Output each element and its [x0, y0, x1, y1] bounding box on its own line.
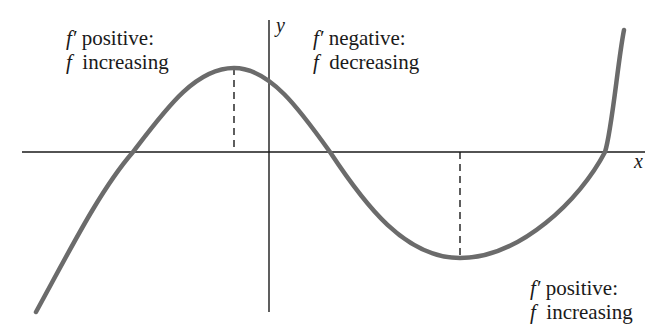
behavior-text: decreasing — [319, 50, 419, 74]
behavior-text: increasing — [72, 50, 169, 74]
annotation-right: f′ positive: f increasing — [530, 276, 633, 324]
derivative-sign-diagram: y x f′ positive: f increasing f′ negativ… — [0, 0, 661, 330]
annotation-left-line2: f increasing — [66, 50, 169, 74]
derivative-sign-text: positive: — [76, 26, 154, 50]
derivative-sign-text: positive: — [540, 276, 618, 300]
behavior-text: increasing — [536, 300, 633, 324]
annotation-right-line1: f′ positive: — [530, 276, 633, 300]
y-axis-label: y — [276, 14, 285, 37]
annotation-left: f′ positive: f increasing — [66, 26, 169, 74]
annotation-right-line2: f increasing — [530, 300, 633, 324]
annotation-middle-line2: f decreasing — [313, 50, 419, 74]
annotation-middle-line1: f′ negative: — [313, 26, 419, 50]
annotation-middle: f′ negative: f decreasing — [313, 26, 419, 74]
f-prime-symbol: f′ — [313, 26, 323, 50]
derivative-sign-text: negative: — [323, 26, 405, 50]
f-prime-symbol: f′ — [530, 276, 540, 300]
annotation-left-line1: f′ positive: — [66, 26, 169, 50]
x-axis-label: x — [634, 150, 643, 173]
f-prime-symbol: f′ — [66, 26, 76, 50]
